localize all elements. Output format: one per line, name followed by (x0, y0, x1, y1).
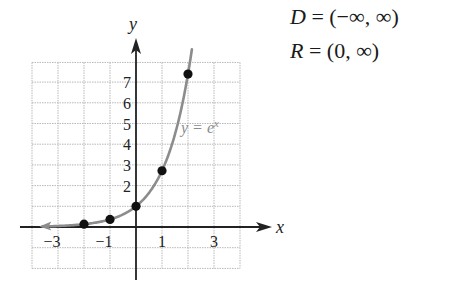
x-tick-label: 3 (210, 233, 218, 250)
x-axis-label: x (275, 217, 284, 237)
curve-label: y = ex (179, 117, 219, 137)
y-tick-label: 5 (123, 116, 131, 133)
data-point (79, 220, 88, 229)
y-tick-label: 7 (123, 74, 131, 91)
data-point (105, 215, 114, 224)
y-tick-label: 3 (123, 157, 131, 174)
y-tick-label: 4 (123, 136, 131, 153)
domain-variable: D (290, 4, 306, 29)
y-axis-label: y (127, 14, 137, 34)
domain-statement: D = (−∞, ∞) (290, 4, 399, 30)
x-tick-label: 1 (158, 233, 166, 250)
data-point (157, 166, 166, 175)
range-variable: R (290, 38, 303, 63)
x-tick-label: −1 (95, 233, 112, 250)
data-point (131, 202, 140, 211)
range-interval: = (0, ∞) (303, 38, 379, 63)
x-tick-label: −3 (43, 233, 60, 250)
exponential-curve (42, 49, 192, 226)
data-point (183, 69, 192, 78)
y-tick-label: 2 (123, 178, 131, 195)
y-tick-label: 6 (123, 95, 131, 112)
tick-labels: −3−113234567 (43, 74, 218, 250)
range-statement: R = (0, ∞) (290, 38, 379, 64)
exponential-graph: −3−113234567 y = ex x y (0, 0, 449, 290)
domain-interval: = (−∞, ∞) (306, 4, 399, 29)
